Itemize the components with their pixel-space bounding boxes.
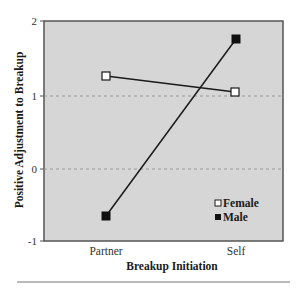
legend-female-swatch xyxy=(215,200,221,206)
y-tick-label: -1 xyxy=(28,235,37,247)
y-tick-label: 0 xyxy=(32,163,38,175)
legend-female-label: Female xyxy=(223,197,259,209)
male-partner-marker xyxy=(102,212,110,220)
legend-male-label: Male xyxy=(223,211,248,223)
legend-male-swatch xyxy=(215,214,221,220)
x-tick-label-self: Self xyxy=(227,245,246,257)
line-chart: 2 1 0 -1 Positive Adjustment to Breakup … xyxy=(0,0,297,289)
y-tick-label: 2 xyxy=(32,15,38,27)
y-tick-label: 1 xyxy=(32,90,38,102)
y-axis-title: Positive Adjustment to Breakup xyxy=(13,52,26,209)
female-partner-marker xyxy=(102,72,110,80)
male-self-marker xyxy=(232,35,240,43)
female-self-marker xyxy=(231,88,239,96)
x-axis-title: Breakup Initiation xyxy=(126,260,218,273)
x-tick-label-partner: Partner xyxy=(89,245,122,257)
